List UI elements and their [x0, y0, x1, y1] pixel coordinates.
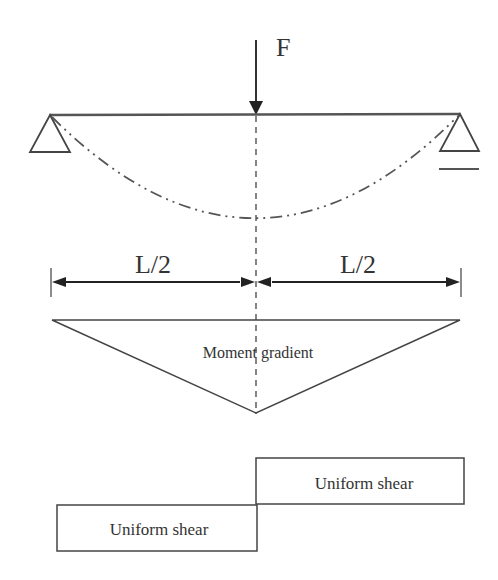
dimension-label-left: L/2 — [135, 250, 171, 279]
roller-support-icon — [439, 114, 479, 169]
force-arrow — [249, 40, 263, 115]
dimension-label-right: L/2 — [340, 250, 376, 279]
moment-label: Moment gradient — [203, 344, 314, 362]
shear-label-left: Uniform shear — [110, 520, 209, 539]
pin-support-icon — [30, 115, 70, 152]
beam — [50, 114, 460, 115]
beam-diagram: F L/2 L/2 Moment gradient Uniform shear … — [0, 0, 498, 580]
moment-diagram — [52, 320, 460, 413]
deflection-curve — [52, 116, 458, 218]
force-label: F — [276, 33, 290, 62]
shear-label-right: Uniform shear — [315, 474, 414, 493]
